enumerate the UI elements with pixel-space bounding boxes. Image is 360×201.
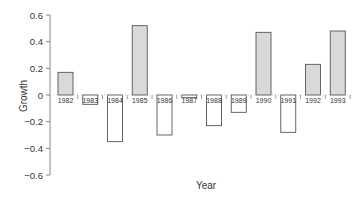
x-tick-label: 1991 [280, 97, 296, 104]
bar-1990 [256, 32, 271, 95]
x-tick-label: 1983 [82, 97, 98, 104]
x-tick-label: 1984 [107, 97, 123, 104]
y-tick-label: −0.6 [24, 170, 43, 181]
y-tick-label: 0.6 [30, 10, 43, 21]
bar-1982 [58, 72, 73, 95]
growth-bar-chart: 0.60.40.20−0.2−0.4−0.6 19821983198419851… [0, 0, 360, 201]
chart-canvas: 0.60.40.20−0.2−0.4−0.6 19821983198419851… [0, 0, 360, 201]
bar-1985 [132, 26, 147, 95]
x-axis-label: Year [196, 180, 217, 191]
x-tick-label: 1993 [330, 97, 346, 104]
x-tick-label: 1985 [132, 97, 148, 104]
x-tick-label: 1989 [231, 97, 247, 104]
x-tick-label: 1990 [256, 97, 272, 104]
y-tick-label: −0.4 [24, 143, 43, 154]
y-tick-label: 0.4 [30, 36, 43, 47]
y-tick-label: 0 [38, 90, 43, 101]
x-tick-label: 1987 [181, 97, 197, 104]
x-axis-ticks: 1982198319841985198619871988198919901991… [50, 95, 352, 104]
x-tick-label: 1992 [305, 97, 321, 104]
bars [58, 26, 345, 142]
x-tick-label: 1988 [206, 97, 222, 104]
y-tick-label: −0.2 [24, 116, 43, 127]
y-tick-label: 0.2 [30, 63, 43, 74]
x-tick-label: 1986 [157, 97, 173, 104]
y-axis-label: Growth [18, 80, 29, 112]
bar-1992 [306, 64, 321, 95]
bar-1993 [330, 31, 345, 95]
x-tick-label: 1982 [58, 97, 74, 104]
